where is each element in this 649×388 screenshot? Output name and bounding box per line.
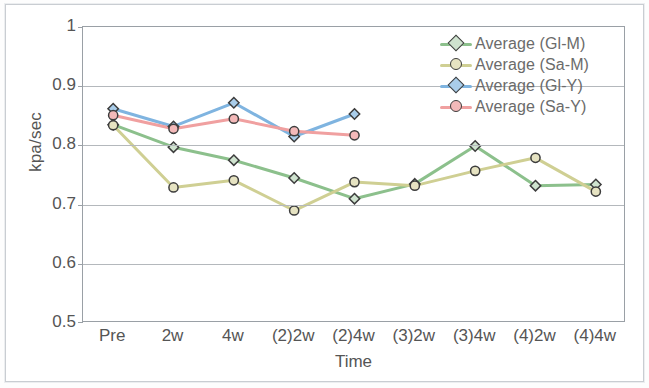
- legend-item: Average (Sa-M): [437, 54, 613, 75]
- line-chart-figure: kpa/sec 0.50.60.70.80.91 Pre2w4w(2)2w(2)…: [0, 0, 649, 388]
- y-tick-label: 0.5: [30, 313, 76, 330]
- chart-legend: Average (Gl-M)Average (Sa-M)Average (Gl-…: [437, 33, 613, 117]
- gridline: [83, 264, 624, 265]
- y-tick-label: 0.7: [30, 195, 76, 212]
- x-tick-label: (2)2w: [272, 326, 315, 346]
- series-data-point: [109, 121, 118, 130]
- x-tick-label: 4w: [222, 326, 244, 346]
- series-data-point: [290, 127, 299, 136]
- series-data-point: [350, 178, 359, 187]
- x-tick-label: (4)2w: [513, 326, 556, 346]
- legend-swatch: [437, 54, 475, 75]
- series-data-point: [350, 131, 359, 140]
- y-tick-label: 0.6: [30, 254, 76, 271]
- x-tick-label: (4)4w: [574, 326, 617, 346]
- y-tick-label: 1: [30, 17, 76, 34]
- legend-label: Average (Gl-Y): [475, 77, 583, 95]
- y-tick-mark: [78, 27, 83, 28]
- series-data-point: [349, 193, 359, 203]
- y-tick-mark: [78, 86, 83, 87]
- series-data-point: [471, 166, 480, 175]
- legend-swatch: [437, 75, 475, 96]
- x-axis-title: Time: [82, 352, 625, 372]
- y-tick-mark: [78, 264, 83, 265]
- x-tick-label: (3)2w: [393, 326, 436, 346]
- legend-label: Average (Gl-M): [475, 35, 585, 53]
- y-tick-label: 0.8: [30, 135, 76, 152]
- y-tick-mark: [78, 322, 83, 323]
- scanned-page: kpa/sec 0.50.60.70.80.91 Pre2w4w(2)2w(2)…: [0, 0, 649, 388]
- series-data-point: [229, 176, 238, 185]
- series-data-point: [290, 206, 299, 215]
- legend-item: Average (Gl-M): [437, 33, 613, 54]
- legend-diamond-icon: [448, 77, 465, 94]
- series-data-point: [109, 111, 118, 120]
- y-axis-tick-labels: 0.50.60.70.80.91: [24, 0, 76, 388]
- series-data-point: [531, 153, 540, 162]
- x-axis-tick-labels: Pre2w4w(2)2w(2)4w(3)2w(3)4w(4)2w(4)4w: [82, 326, 625, 352]
- y-tick-mark: [78, 145, 83, 146]
- series-data-point: [229, 114, 238, 123]
- y-tick-mark: [78, 205, 83, 206]
- x-tick-label: Pre: [99, 326, 125, 346]
- series-data-point: [591, 187, 600, 196]
- y-tick-label: 0.9: [30, 76, 76, 93]
- series-data-point: [169, 183, 178, 192]
- series-data-point: [168, 142, 178, 152]
- x-tick-label: (2)4w: [332, 326, 375, 346]
- legend-diamond-icon: [448, 35, 465, 52]
- series-data-point: [169, 124, 178, 133]
- legend-item: Average (Gl-Y): [437, 75, 613, 96]
- series-data-point: [229, 155, 239, 165]
- series-data-point: [289, 173, 299, 183]
- legend-swatch: [437, 96, 475, 117]
- legend-circle-icon: [450, 100, 462, 112]
- legend-label: Average (Sa-Y): [475, 98, 586, 116]
- gridline: [83, 205, 624, 206]
- legend-swatch: [437, 33, 475, 54]
- legend-item: Average (Sa-Y): [437, 96, 613, 117]
- x-tick-label: (3)4w: [453, 326, 496, 346]
- series-data-point: [410, 181, 419, 190]
- legend-circle-icon: [450, 58, 462, 70]
- legend-label: Average (Sa-M): [475, 56, 589, 74]
- gridline: [83, 145, 624, 146]
- series-data-point: [349, 109, 359, 119]
- x-tick-label: 2w: [162, 326, 184, 346]
